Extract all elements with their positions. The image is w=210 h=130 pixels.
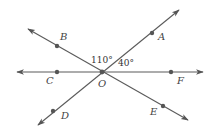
point-a — [150, 31, 154, 35]
point-f — [169, 70, 173, 74]
point-d — [51, 109, 55, 113]
angle-BOA-label: 110° — [91, 55, 113, 65]
point-e — [161, 104, 165, 108]
point-o — [100, 70, 105, 75]
angle-AOF-label: 40° — [118, 58, 134, 68]
point-label-c: C — [46, 75, 54, 86]
intersecting-lines-diagram: ABCDEFO 110°40° — [0, 0, 210, 130]
point-label-o: O — [98, 78, 106, 89]
point-label-d: D — [60, 110, 69, 121]
line-DA — [38, 10, 179, 125]
angle-labels-layer: 110°40° — [91, 55, 134, 68]
point-label-f: F — [176, 75, 185, 86]
point-label-a: A — [157, 31, 165, 42]
point-c — [55, 70, 59, 74]
lines-layer — [17, 10, 203, 125]
point-label-e: E — [149, 106, 158, 117]
point-label-b: B — [59, 31, 67, 42]
point-b — [55, 44, 59, 48]
